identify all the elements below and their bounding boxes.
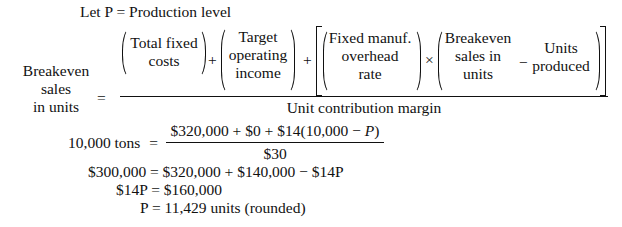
right-paren-icon bbox=[592, 28, 600, 94]
variable-p: P bbox=[365, 122, 374, 139]
minus-sign: − bbox=[519, 55, 528, 71]
plus-sign: + bbox=[208, 52, 217, 68]
term-line: Units bbox=[544, 39, 578, 57]
term-line: Breakeven bbox=[445, 29, 511, 47]
right-paren-icon bbox=[413, 28, 421, 94]
right-bracket-icon bbox=[600, 26, 606, 96]
solution-line1-lhs: 10,000 tons = bbox=[68, 135, 158, 151]
formula-equals: = bbox=[97, 90, 106, 106]
term-line: Total fixed bbox=[130, 34, 197, 52]
term-line: costs bbox=[149, 52, 180, 70]
formula-denominator: Unit contribution margin bbox=[120, 100, 608, 116]
lhs-line: Breakeven bbox=[23, 62, 89, 80]
equals-sign: = bbox=[149, 134, 158, 151]
times-sign: × bbox=[425, 52, 434, 68]
right-paren-icon bbox=[287, 26, 295, 94]
left-bracket-icon bbox=[316, 26, 322, 96]
lhs-line: sales bbox=[41, 80, 71, 98]
term-breakeven-sales-in-units: Breakeven sales in units bbox=[442, 29, 514, 83]
term-total-fixed-costs: Total fixed costs bbox=[126, 34, 202, 70]
term-line: sales in bbox=[455, 47, 501, 65]
fraction-bar bbox=[166, 142, 384, 143]
right-paren-icon bbox=[198, 28, 206, 78]
term-fixed-manuf-overhead-rate: Fixed manuf. overhead rate bbox=[328, 29, 412, 83]
term-target-operating-income: Target operating income bbox=[225, 28, 291, 82]
solution-line1-numerator: $320,000 + $0 + $14(10,000 − P) bbox=[166, 123, 384, 139]
solution-line2: $300,000 = $320,000 + $140,000 − $14P bbox=[88, 164, 344, 180]
close-paren: ) bbox=[374, 122, 379, 139]
term-line: rate bbox=[358, 65, 381, 83]
term-line: units bbox=[463, 65, 493, 83]
intro-text: Let P = Production level bbox=[80, 4, 231, 20]
lhs-text: 10,000 tons bbox=[68, 134, 140, 151]
term-line: Target bbox=[238, 28, 277, 46]
term-line: Fixed manuf. bbox=[329, 29, 412, 47]
solution-line4: P = 11,429 units (rounded) bbox=[140, 200, 306, 216]
solution-line1-denominator: $30 bbox=[166, 146, 384, 162]
solution-line3: $14P = $160,000 bbox=[116, 182, 222, 198]
term-line: income bbox=[235, 64, 281, 82]
term-line: produced bbox=[532, 57, 590, 75]
term-units-produced: Units produced bbox=[530, 39, 592, 75]
term-line: operating bbox=[229, 46, 288, 64]
lhs-line: in units bbox=[33, 98, 79, 116]
numerator-text: $320,000 + $0 + $14(10,000 − bbox=[171, 122, 365, 139]
term-line: overhead bbox=[342, 47, 399, 65]
formula-lhs: Breakeven sales in units bbox=[18, 62, 94, 116]
fraction-bar bbox=[120, 96, 608, 97]
plus-sign: + bbox=[303, 52, 312, 68]
